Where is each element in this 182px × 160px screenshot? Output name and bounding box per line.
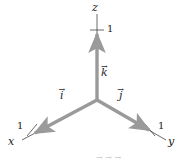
vector-overarrow-j: → <box>117 86 124 94</box>
axis-lines <box>22 14 166 140</box>
vector-j-shaft <box>97 100 149 130</box>
vector-i-shaft <box>35 100 97 133</box>
tick-label-z: 1 <box>107 24 113 34</box>
axis-label-x: x <box>8 136 14 147</box>
axis-label-z: z <box>92 2 98 13</box>
cut-off-caption: → → → <box>0 153 182 160</box>
axis-label-y: y <box>168 136 174 147</box>
unit-vectors <box>35 34 149 133</box>
tick-label-y: 1 <box>158 121 164 131</box>
coordinate-axes-figure: z x y 1 1 1 → k → i → j → → → <box>0 0 182 160</box>
unit-tick-marks <box>27 30 155 136</box>
axes-drawing <box>0 0 182 160</box>
vector-overarrow-i: → <box>58 86 65 94</box>
tick-mark-x <box>27 124 37 136</box>
tick-label-x: 1 <box>17 121 23 131</box>
vector-label-j: → j <box>119 86 122 101</box>
vector-label-k: → k <box>101 63 108 78</box>
vector-label-i: → i <box>60 86 64 101</box>
vector-overarrow-k: → <box>101 63 108 71</box>
